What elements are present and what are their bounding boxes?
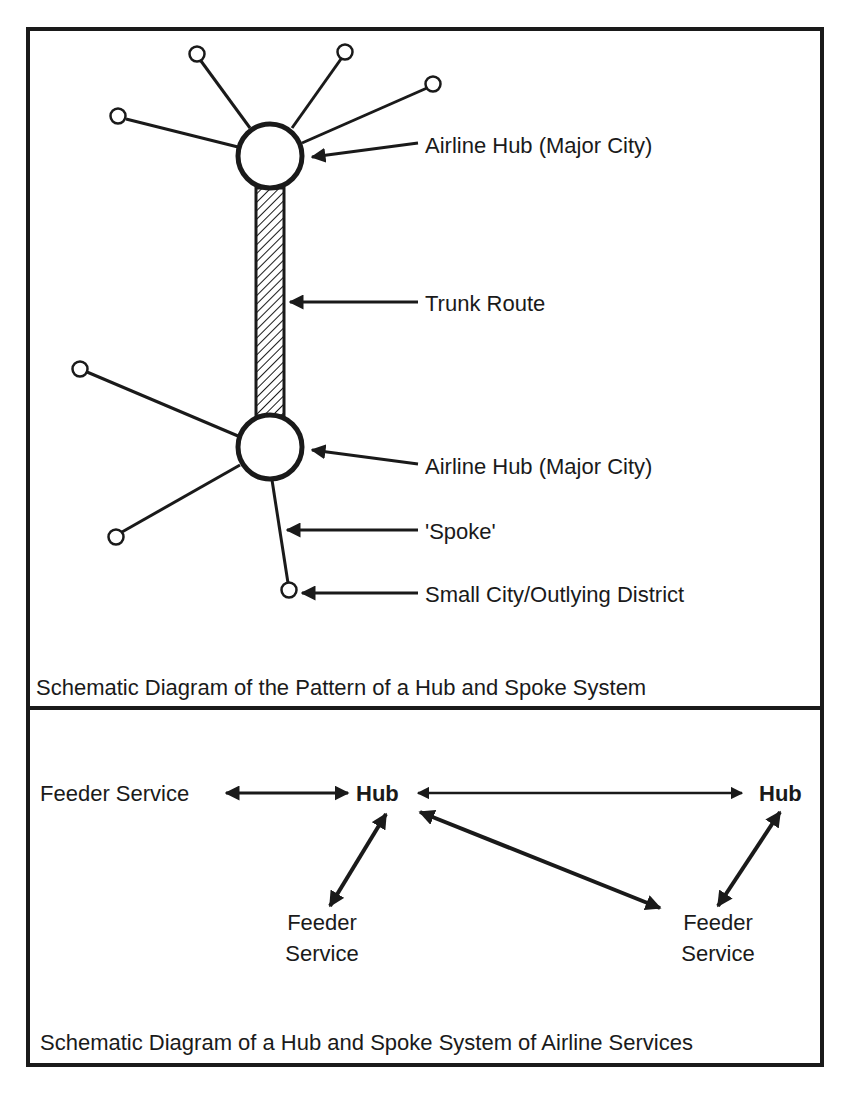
label-feeder-left: Feeder Service xyxy=(40,781,189,806)
hub-bottom-circle xyxy=(238,415,302,479)
hub-spoke-figure: Airline Hub (Major City) Trunk Route Air… xyxy=(0,0,843,1097)
label-trunk-route: Trunk Route xyxy=(425,291,545,316)
service-arrows xyxy=(226,793,780,908)
label-feeder-mid-line2: Service xyxy=(285,941,358,966)
label-hub-top: Airline Hub (Major City) xyxy=(425,133,652,158)
label-spoke: 'Spoke' xyxy=(425,519,496,544)
label-feeder-right-line1: Feeder xyxy=(683,910,753,935)
caption-top: Schematic Diagram of the Pattern of a Hu… xyxy=(36,675,646,700)
trunk-route-bar xyxy=(256,188,284,416)
label-hub-bottom: Airline Hub (Major City) xyxy=(425,454,652,479)
hub-top-circle xyxy=(238,124,302,188)
top-panel: Airline Hub (Major City) Trunk Route Air… xyxy=(36,45,684,701)
label-hub-right: Hub xyxy=(759,781,802,806)
label-small-city: Small City/Outlying District xyxy=(425,582,684,607)
label-feeder-right-line2: Service xyxy=(681,941,754,966)
label-hub-left: Hub xyxy=(356,781,399,806)
caption-bottom: Schematic Diagram of a Hub and Spoke Sys… xyxy=(40,1030,693,1055)
label-feeder-mid-line1: Feeder xyxy=(287,910,357,935)
bottom-panel: Feeder Service Hub Hub Feeder Service Fe… xyxy=(40,781,802,1055)
pointer-arrows xyxy=(287,143,418,593)
